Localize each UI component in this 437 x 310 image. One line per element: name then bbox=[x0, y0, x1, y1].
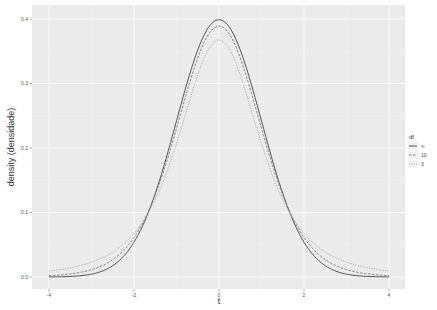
x-tick-label: -4 bbox=[47, 292, 52, 298]
y-tick-label: 0.1 bbox=[21, 209, 28, 215]
legend-label-inf: ∞ bbox=[421, 143, 425, 149]
x-tick-label: 4 bbox=[388, 292, 391, 298]
y-axis: 0.00.10.20.30.4 bbox=[21, 16, 32, 280]
x-tick-label: 2 bbox=[303, 292, 306, 298]
y-tick-label: 0.4 bbox=[21, 16, 28, 22]
legend-label-3: 3 bbox=[421, 161, 424, 167]
x-tick-label: -2 bbox=[132, 292, 137, 298]
legend-title: df bbox=[409, 134, 414, 140]
y-tick-label: 0.2 bbox=[21, 145, 28, 151]
legend: df ∞103 bbox=[408, 134, 427, 168]
y-tick-label: 0.0 bbox=[21, 274, 28, 280]
plot-panel bbox=[32, 5, 405, 289]
y-tick-label: 0.3 bbox=[21, 80, 28, 86]
t-distribution-density-chart: -4-2024 0.00.10.20.30.4 t density (densi… bbox=[0, 0, 437, 310]
legend-label-10: 10 bbox=[421, 152, 427, 158]
y-axis-title: density (densidade) bbox=[6, 108, 16, 187]
